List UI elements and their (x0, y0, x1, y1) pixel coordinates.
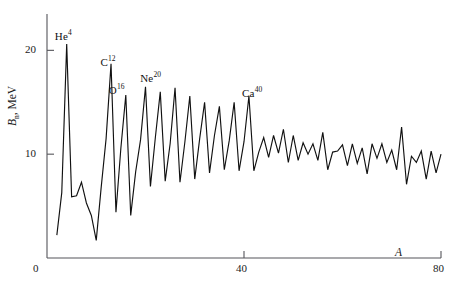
peak-label-mass: 16 (117, 82, 125, 91)
peak-label-element: He (55, 29, 68, 41)
peak-label-element: Ne (140, 72, 153, 84)
data-series-group (57, 44, 441, 240)
y-axis-title-main: B (6, 119, 18, 126)
x-axis-title: A (395, 246, 402, 258)
peak-label-mass: 4 (68, 28, 72, 37)
y-axis-title-unit: , MeV (6, 86, 18, 115)
x-tick-label-40: 40 (236, 262, 247, 274)
y-tick-label-10: 10 (25, 147, 36, 159)
data-line-neutron-separation-energy (57, 44, 441, 240)
peak-label-mass: 40 (255, 85, 263, 94)
y-tick-label-20: 20 (25, 43, 36, 55)
peak-label-ne20: Ne20 (140, 70, 161, 84)
peak-label-he4: He4 (55, 28, 72, 42)
peak-label-mass: 12 (108, 54, 116, 63)
peak-label-ca40: Ca40 (242, 85, 262, 99)
x-tick-label-80: 80 (433, 262, 444, 274)
peak-label-c12: C12 (100, 54, 115, 68)
peak-label-element: C (100, 56, 108, 68)
peak-label-mass: 20 (153, 70, 161, 79)
plot-canvas (0, 0, 461, 291)
binding-energy-figure: 010204080 Bn, MeV A He4C12O16Ne20Ca40 (0, 0, 461, 291)
y-tick-label-0: 0 (33, 262, 39, 274)
peak-label-element: Ca (242, 87, 255, 99)
y-axis-title: Bn, MeV (6, 86, 21, 126)
x-axis-ticks (244, 251, 441, 258)
peak-label-element: O (109, 84, 117, 96)
y-axis-ticks (47, 50, 54, 154)
y-axis-title-sub: n (12, 115, 21, 119)
peak-label-o16: O16 (109, 82, 125, 96)
